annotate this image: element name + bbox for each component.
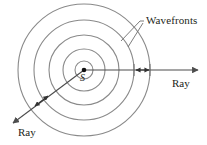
source-label: S bbox=[80, 72, 85, 83]
wavelength-markers bbox=[35, 70, 149, 106]
wavelength-marker-left bbox=[35, 96, 48, 106]
wavefronts-label: Wavefronts bbox=[146, 14, 197, 26]
leader-line-inner bbox=[128, 23, 143, 47]
leader-line-outer bbox=[121, 21, 144, 41]
ray-left-label: Ray bbox=[18, 126, 36, 138]
wavefront-ray-diagram: Wavefronts Ray Ray S bbox=[0, 0, 207, 145]
ray-right-label: Ray bbox=[172, 77, 190, 89]
